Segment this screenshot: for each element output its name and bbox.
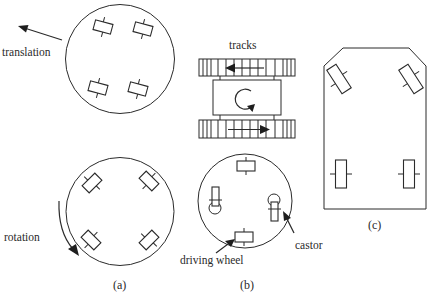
wheel-rear-left <box>87 76 110 100</box>
wheel-front-right-steered <box>394 61 428 96</box>
wheel-rear-right-fixed <box>398 160 420 188</box>
castor-left <box>209 187 222 214</box>
mobile-robot-configurations-diagram: translation rotation (a) tracks <box>0 0 428 294</box>
panel-c-car-chassis <box>322 48 428 209</box>
rotation-label: rotation <box>4 231 40 243</box>
wheel-front-left <box>79 170 106 197</box>
wheel-front-right <box>136 168 163 195</box>
tracks-label: tracks <box>229 39 257 51</box>
vehicle-body <box>213 80 281 115</box>
wheel-front-left <box>92 15 115 39</box>
castor-right <box>268 194 281 221</box>
driving-wheel-bottom <box>235 228 253 246</box>
castor-label: castor <box>295 239 323 251</box>
driving-wheel-label: driving wheel <box>180 254 244 267</box>
wheel-front-left-steered <box>322 61 356 96</box>
panel-b-differential-base: driving wheel castor <box>180 154 323 267</box>
wheel-rear-right <box>127 77 150 101</box>
caption-c: (c) <box>368 218 381 232</box>
robot-base-circle <box>66 158 174 266</box>
panel-a-rotation: rotation <box>4 158 174 266</box>
wheel-rear-left-fixed <box>330 160 352 188</box>
track-bottom <box>199 120 295 138</box>
wheel-front-right <box>132 17 155 41</box>
panel-b-tracked-vehicle: tracks <box>199 39 295 138</box>
translation-arrow-icon <box>18 25 62 40</box>
caption-a: (a) <box>113 278 126 292</box>
rotate-clockwise-icon <box>235 89 255 112</box>
translation-label: translation <box>2 46 51 58</box>
track-top <box>199 59 295 76</box>
castor-pointer-arrow-icon <box>283 211 294 233</box>
caption-b: (b) <box>240 278 254 292</box>
panel-a-translation: translation <box>2 5 175 114</box>
robot-base-circle <box>66 5 175 114</box>
driving-wheel-top <box>237 157 255 175</box>
